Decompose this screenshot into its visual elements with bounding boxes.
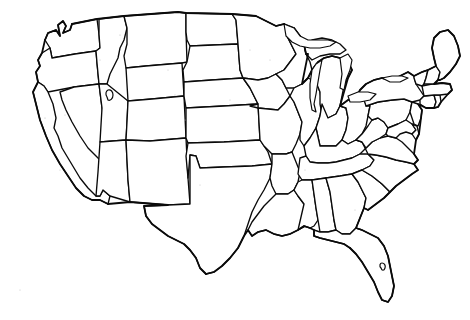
state-arizona[interactable]: Arizona [96, 140, 130, 202]
state-south-dakota[interactable]: South Dakota [183, 44, 243, 82]
scan-speck [270, 60, 271, 61]
state-montana[interactable]: Montana [124, 12, 187, 68]
scan-speck [119, 34, 120, 35]
scan-speck [174, 94, 175, 95]
great-salt-lake[interactable] [106, 90, 113, 100]
scan-speck [230, 100, 231, 101]
state-new-mexico[interactable]: New Mexico [126, 138, 190, 205]
scan-speck [185, 120, 186, 121]
state-kansas[interactable]: Kansas [186, 104, 260, 143]
scan-speck [60, 170, 61, 171]
state-colorado[interactable]: Colorado [126, 96, 186, 141]
scan-speck [65, 115, 66, 116]
us-map-canvas: Washington Oregon California Idaho Nevad… [0, 0, 470, 320]
scan-speck [200, 185, 201, 186]
scan-speck [355, 210, 356, 211]
scan-speck [250, 50, 251, 51]
state-north-dakota[interactable]: North Dakota [186, 13, 238, 46]
scan-speck [100, 60, 101, 61]
scan-speck [44, 117, 45, 118]
us-outline-map-figure: Washington Oregon California Idaho Nevad… [0, 0, 470, 320]
scan-speck [305, 170, 306, 171]
scan-speck [20, 290, 21, 291]
scan-speck [168, 70, 169, 71]
